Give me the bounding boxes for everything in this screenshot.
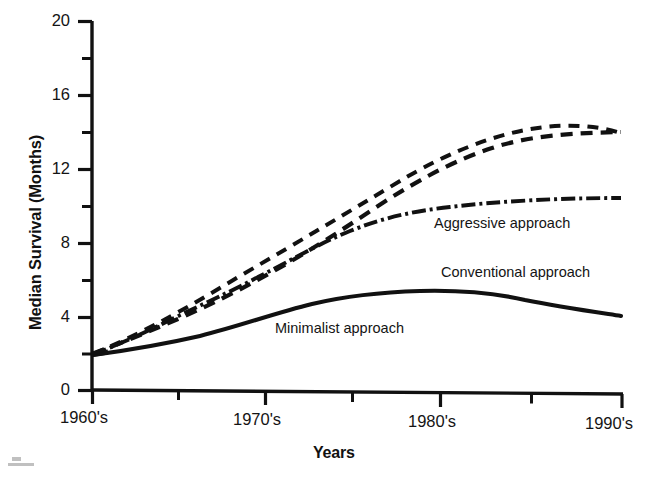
x-tick-label-1970s: 1970's bbox=[233, 410, 281, 429]
x-axis-title: Years bbox=[313, 444, 355, 462]
chart-figure: 20 16 12 8 4 0 1960's 1970's 1980's 1990… bbox=[0, 0, 648, 479]
y-axis-title: Median Survival (Months) bbox=[26, 135, 45, 330]
y-tick-label-16: 16 bbox=[30, 85, 70, 104]
scan-artifact bbox=[8, 463, 34, 466]
x-tick-label-1980s: 1980's bbox=[408, 412, 456, 431]
series-label-conventional: Conventional approach bbox=[441, 264, 590, 280]
y-tick-label-20: 20 bbox=[30, 11, 70, 30]
series-label-minimalist: Minimalist approach bbox=[275, 320, 404, 336]
x-tick-label-1990s: 1990's bbox=[585, 414, 633, 433]
series-label-aggressive: Aggressive approach bbox=[434, 215, 570, 231]
x-tick-label-1960s: 1960's bbox=[60, 408, 108, 427]
y-tick-label-0: 0 bbox=[30, 380, 70, 399]
scan-artifact-2 bbox=[12, 457, 21, 461]
